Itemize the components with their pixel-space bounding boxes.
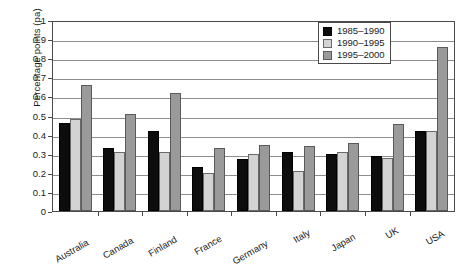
- bar: [214, 148, 225, 211]
- y-axis-tick-label: 1: [0, 16, 46, 26]
- bar: [337, 152, 348, 211]
- bar: [259, 145, 270, 211]
- x-axis-label: France: [192, 233, 223, 257]
- bar-group: [98, 22, 143, 211]
- legend-label: 1990–1995: [337, 38, 385, 48]
- bar: [103, 148, 114, 211]
- bar-group: [231, 22, 276, 211]
- bar: [371, 156, 382, 211]
- bar: [348, 143, 359, 211]
- x-axis-label: UK: [384, 225, 401, 241]
- bar-group: [53, 22, 98, 211]
- bar: [248, 154, 259, 211]
- bar: [437, 47, 448, 211]
- y-axis-tick-label: 0.3: [0, 150, 46, 160]
- bar: [304, 146, 315, 211]
- y-axis-tick-label: 0.1: [0, 188, 46, 198]
- legend: 1985–19901990–19951995–2000: [318, 22, 391, 64]
- x-axis-label: Canada: [100, 235, 134, 261]
- x-axis-labels: AustraliaCanadaFinlandFranceGermanyItaly…: [52, 214, 455, 268]
- bar: [293, 171, 304, 211]
- bar: [81, 85, 92, 211]
- legend-label: 1985–1990: [337, 26, 385, 36]
- bar: [70, 119, 81, 211]
- bar-chart: Percentage points (pa) 10.90.80.70.60.50…: [0, 0, 465, 268]
- bar: [125, 114, 136, 211]
- bar: [237, 159, 248, 211]
- y-axis-tick-label: 0.9: [0, 35, 46, 45]
- legend-swatch-icon: [323, 51, 332, 60]
- y-axis-tick-label: 0.2: [0, 169, 46, 179]
- legend-item: 1995–2000: [323, 50, 385, 60]
- x-axis-label: Germany: [230, 238, 269, 267]
- bar: [159, 152, 170, 211]
- y-axis-tick-mark: [48, 212, 52, 213]
- bar-group: [142, 22, 187, 211]
- legend-item: 1985–1990: [323, 26, 385, 36]
- legend-label: 1995–2000: [337, 50, 385, 60]
- x-axis-label: Italy: [291, 227, 312, 245]
- bar: [415, 131, 426, 211]
- bar-groups: [53, 22, 454, 211]
- bar: [393, 124, 404, 211]
- x-axis-label: Finland: [146, 234, 178, 259]
- x-axis-label: Japan: [329, 231, 357, 253]
- y-axis-tick-label: 0.7: [0, 73, 46, 83]
- x-axis-label: Australia: [53, 236, 91, 264]
- legend-swatch-icon: [323, 39, 332, 48]
- bar: [59, 123, 70, 211]
- x-axis-label: USA: [424, 228, 446, 247]
- bar: [114, 152, 125, 211]
- plot-area: [52, 21, 455, 212]
- y-axis-tick-label: 0.5: [0, 112, 46, 122]
- y-axis-tick-label: 0.6: [0, 92, 46, 102]
- legend-swatch-icon: [323, 27, 332, 36]
- bar: [203, 173, 214, 211]
- y-axis-tick-label: 0: [0, 207, 46, 217]
- y-axis-tick-label: 0.4: [0, 131, 46, 141]
- bar-group: [276, 22, 321, 211]
- bar: [148, 131, 159, 211]
- y-axis-tick-label: 0.8: [0, 54, 46, 64]
- bar: [192, 167, 203, 211]
- bar: [382, 158, 393, 211]
- bar: [426, 131, 437, 211]
- bar: [326, 154, 337, 211]
- bar-group: [410, 22, 455, 211]
- legend-item: 1990–1995: [323, 38, 385, 48]
- bar: [170, 93, 181, 211]
- bar-group: [187, 22, 232, 211]
- bar: [282, 152, 293, 211]
